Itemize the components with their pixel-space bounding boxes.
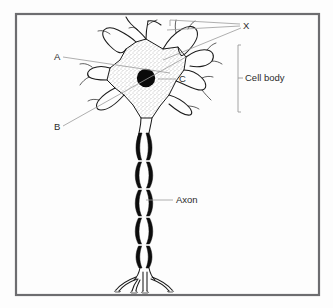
dendrite-right-lower-twig-b: [202, 90, 211, 100]
leader-line-x-1: [170, 20, 240, 24]
label-b: B: [54, 121, 60, 132]
axon-terminals-group: [115, 268, 174, 293]
label-cell-body: Cell body: [245, 72, 285, 83]
dendrite-top-center: [146, 21, 148, 39]
axon-hillock: [139, 118, 141, 133]
dendrite-right-lower-twig-a: [202, 76, 213, 78]
leader-line-x-2: [167, 26, 240, 30]
dendrite-top-center-right-branch: [148, 21, 161, 25]
dendrite-right-lobe-twig-a: [207, 43, 216, 50]
dendrite-right-lobe-twig-b: [212, 61, 222, 64]
cell-body-bracket: [238, 45, 243, 112]
nucleus: [137, 69, 155, 87]
terminal-trunk-left: [134, 268, 140, 280]
neuron-diagram-canvas: A B C X Cell body Axon: [0, 0, 333, 308]
myelin-segment-left-strand: [135, 133, 142, 268]
terminal-branch-far-right: [152, 277, 172, 290]
dendrite-lower-left-twig: [88, 99, 99, 101]
label-c: C: [179, 73, 186, 84]
dendrite-mid-left-twig-a: [80, 64, 92, 67]
dendrite-lower-right: [169, 95, 192, 115]
cell-body-bracket-path: [238, 45, 241, 112]
label-a: A: [54, 51, 61, 62]
dendrite-mid-left-twig-b: [80, 77, 89, 85]
dendrite-upper-left-twig: [98, 31, 110, 34]
leader-line-x-3: [163, 28, 241, 60]
dendrite-mid-left: [88, 67, 110, 81]
axon-group: [135, 118, 153, 268]
dendrite-right-lobe-upper: [186, 50, 213, 67]
label-axon: Axon: [176, 194, 198, 205]
neuron-diagram-figure: A B C X Cell body Axon: [0, 0, 333, 308]
axon-hillock-right: [149, 118, 152, 133]
soma-group: [107, 39, 186, 118]
dendrite-upper-right-twig-a: [175, 20, 176, 33]
terminal-bouton-center: [142, 291, 149, 293]
terminal-bouton-inner-left: [131, 291, 138, 293]
label-x: X: [243, 20, 250, 31]
myelin-segment-right-strand: [146, 133, 153, 268]
